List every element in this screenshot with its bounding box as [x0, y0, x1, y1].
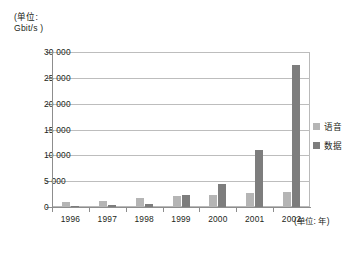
bar-语音-2002 [283, 192, 291, 207]
legend-swatch-icon [313, 123, 320, 130]
bar-数据-2001 [255, 150, 263, 207]
x-tick-mark [163, 207, 164, 212]
x-tick-label-2000: 2000 [208, 214, 227, 224]
legend-item-数据: 数据 [313, 139, 342, 151]
bars-layer [52, 52, 310, 207]
x-axis-unit-label: (单位: 年) [294, 214, 330, 226]
x-tick-mark [89, 207, 90, 212]
bar-数据-1997 [108, 205, 116, 207]
y-axis-unit-caption: (单位: Gbit/s ) [14, 12, 43, 34]
bar-chart: (单位: Gbit/s ) 05 00010 00015 00020 00025… [0, 0, 361, 261]
bar-语音-1998 [136, 198, 144, 207]
x-tick-label-1996: 1996 [61, 214, 80, 224]
x-tick-label-1998: 1998 [134, 214, 153, 224]
chart-legend: 语音数据 [313, 120, 342, 158]
bar-语音-1996 [62, 202, 70, 207]
x-tick-mark [273, 207, 274, 212]
bar-语音-2001 [246, 193, 254, 207]
legend-swatch-icon [313, 142, 320, 149]
bar-数据-1999 [182, 195, 190, 207]
bar-数据-2000 [218, 184, 226, 207]
bar-数据-1996 [71, 206, 79, 207]
x-tick-mark [236, 207, 237, 212]
x-tick-mark [126, 207, 127, 212]
bar-数据-1998 [145, 204, 153, 207]
bar-语音-1999 [173, 196, 181, 207]
x-tick-label-2001: 2001 [245, 214, 264, 224]
bar-数据-2002 [292, 65, 300, 207]
x-tick-label-1997: 1997 [98, 214, 117, 224]
legend-item-语音: 语音 [313, 120, 342, 132]
legend-label: 数据 [324, 139, 342, 151]
bar-语音-1997 [99, 201, 107, 207]
x-tick-mark [52, 207, 53, 212]
x-tick-label-1999: 1999 [171, 214, 190, 224]
bar-语音-2000 [209, 195, 217, 207]
x-tick-mark [199, 207, 200, 212]
legend-label: 语音 [324, 120, 342, 132]
x-axis-line [52, 207, 311, 208]
